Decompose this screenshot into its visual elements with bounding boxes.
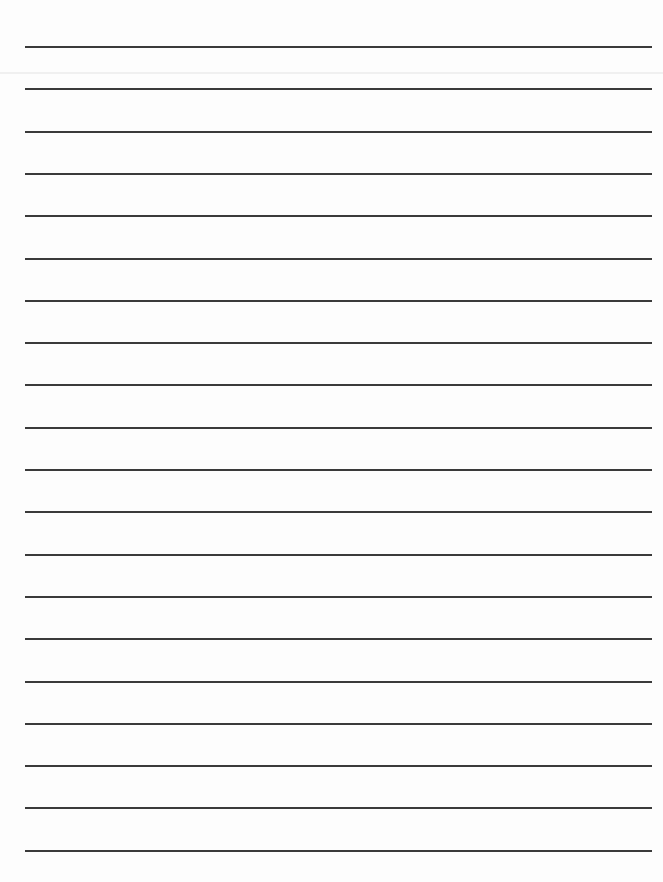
ruled-line (25, 46, 652, 48)
ruled-line (25, 807, 652, 809)
scan-band (0, 72, 663, 74)
ruled-line (25, 173, 652, 175)
ruled-line (25, 131, 652, 133)
ruled-line (25, 384, 652, 386)
ruled-line (25, 215, 652, 217)
ruled-line (25, 681, 652, 683)
ruled-line (25, 554, 652, 556)
ruled-line (25, 300, 652, 302)
ruled-line (25, 88, 652, 90)
ruled-line (25, 596, 652, 598)
lined-paper-page (0, 0, 663, 882)
ruled-line (25, 850, 652, 852)
ruled-line (25, 258, 652, 260)
ruled-line (25, 765, 652, 767)
ruled-line (25, 342, 652, 344)
ruled-line (25, 511, 652, 513)
ruled-line (25, 469, 652, 471)
ruled-line (25, 427, 652, 429)
ruled-line (25, 723, 652, 725)
ruled-line (25, 638, 652, 640)
